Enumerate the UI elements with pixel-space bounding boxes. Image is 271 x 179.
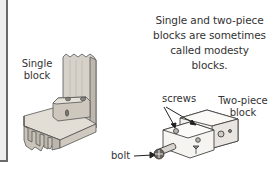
single-block-illustration <box>24 54 96 151</box>
two-piece-block-illustration <box>163 110 238 158</box>
illustration <box>0 0 271 179</box>
